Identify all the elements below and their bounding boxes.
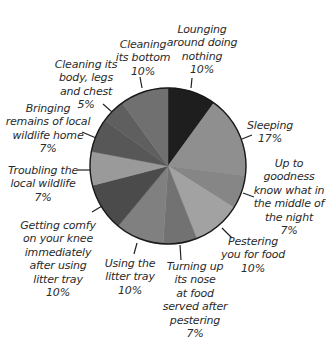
slice-label-line: 10% [221,262,285,275]
slice-label-line: litter tray [20,273,96,286]
slice-label: Loungingaround doingnothing10% [167,23,238,77]
slice-label-line: at food [163,287,228,300]
slice-label-line: remains of local [6,115,91,128]
slice-label-line: 7% [163,327,228,340]
slice-label-line: Pestering [221,235,285,248]
slice-label-line: litter tray [105,270,156,283]
slice-label-line: the middle of [254,197,325,210]
slice-label-line: you for food [221,248,285,261]
slice-label: Turning upits noseat foodserved afterpes… [163,260,228,340]
slice-label-line: 5% [55,98,117,111]
slice-label-line: 17% [247,132,293,145]
slice-label-line: wildlife home [6,129,91,142]
slice-label: Sleeping17% [247,119,293,146]
slice-label-line: its bottom [116,51,170,64]
slice-label: Cleaningits bottom10% [116,38,170,78]
slice-label-line: Using the [105,257,156,270]
slice-label-line: goodness [254,170,325,183]
slice-label-line: nothing [167,50,238,63]
slice-label: Cleaning itsbody, legsand chest5% [55,58,117,112]
slice-label-line: Turning up [163,260,228,273]
slice-label: Troubling thelocal wildlife7% [8,164,78,204]
slice-label-line: Lounging [167,23,238,36]
slice-label-line: Troubling the [8,164,78,177]
slice-label: Using thelitter tray10% [105,257,156,297]
slice-label-line: and chest [55,85,117,98]
slice-label-line: know what in [254,184,325,197]
slice-label-line: Cleaning [116,38,170,51]
slice-label: Pesteringyou for food10% [221,235,285,275]
slice-label-line: 10% [105,284,156,297]
leader-line [180,245,181,260]
slice-label: Getting comfyon your kneeimmediatelyafte… [20,219,96,299]
slice-label-line: 10% [116,65,170,78]
slice-label-line: immediately [20,246,96,259]
slice-label-line: on your knee [20,232,96,245]
slice-label-line: 10% [20,286,96,299]
slice-label: Up togoodnessknow what inthe middle ofth… [254,157,325,237]
slice-label-line: around doing [167,36,238,49]
slice-label-line: Getting comfy [20,219,96,232]
slice-label-line: served after [163,300,228,313]
slice-label-line: the night [254,211,325,224]
slice-label-line: pestering [163,314,228,327]
slice-label-line: Cleaning its [55,58,117,71]
slice-label-line: Up to [254,157,325,170]
slice-label-line: after using [20,259,96,272]
slice-label-line: local wildlife [8,177,78,190]
leader-line [191,78,192,88]
slice-label-line: body, legs [55,71,117,84]
slice-label-line: Sleeping [247,119,293,132]
leader-line [140,77,142,88]
leader-line [243,193,254,197]
slice-label-line: its nose [163,273,228,286]
slice-label-line: 7% [6,142,91,155]
leader-line [134,243,137,254]
slice-label-line: 10% [167,63,238,76]
leader-line [92,206,102,212]
slice-label-line: 7% [8,191,78,204]
